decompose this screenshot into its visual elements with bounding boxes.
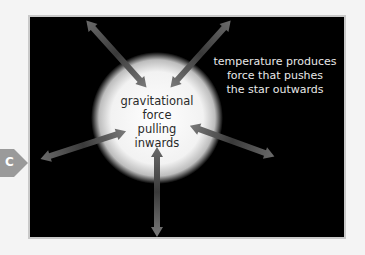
section-badge-label: C	[5, 155, 14, 169]
outward-line-2: force that pushes	[210, 69, 340, 83]
inward-line-3: pulling	[107, 122, 207, 136]
outward-force-label: temperature produces force that pushes t…	[210, 55, 340, 97]
outward-line-1: temperature produces	[210, 55, 340, 69]
inward-line-2: force	[107, 108, 207, 122]
inward-line-1: gravitational	[107, 94, 207, 108]
inward-line-4: inwards	[107, 136, 207, 150]
outward-line-3: the star outwards	[210, 83, 340, 97]
inward-force-label: gravitational force pulling inwards	[107, 94, 207, 150]
